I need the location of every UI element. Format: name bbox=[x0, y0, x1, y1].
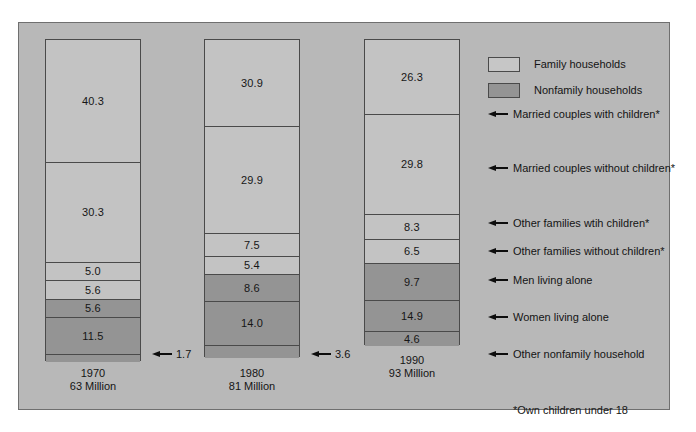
bar-total-label: 63 Million bbox=[45, 380, 141, 393]
bar-segment-other-families-without-children[interactable]: 5.6 bbox=[46, 281, 140, 300]
annotation-other-families-with-children: Other families wtih children* bbox=[488, 217, 649, 229]
segment-value: 5.4 bbox=[244, 260, 260, 271]
segment-value: 30.9 bbox=[241, 78, 263, 89]
segment-value: 26.3 bbox=[401, 72, 423, 83]
bar-segment-married-without-children[interactable]: 30.3 bbox=[46, 163, 140, 263]
annotation-label: Married couples with children* bbox=[513, 108, 660, 120]
bar-segment-women-living-alone[interactable]: 14.9 bbox=[365, 301, 459, 332]
bar-caption-1980: 1980 81 Million bbox=[204, 367, 300, 393]
bar-total-label: 81 Million bbox=[204, 380, 300, 393]
bar-segment-women-living-alone[interactable]: 11.5 bbox=[46, 318, 140, 355]
segment-value: 14.0 bbox=[241, 318, 263, 329]
footnote: *Own children under 18 bbox=[513, 404, 628, 416]
legend-item-nonfamily[interactable]: Nonfamily households bbox=[488, 81, 642, 99]
bar-segment-men-living-alone[interactable]: 8.6 bbox=[205, 275, 299, 302]
bar-segment-other-nonfamily[interactable]: 1.7 bbox=[46, 355, 140, 362]
left-arrow-icon bbox=[488, 350, 508, 359]
legend-item-family[interactable]: Family households bbox=[488, 55, 642, 73]
stacked-bar-1980[interactable]: 30.9 29.9 7.5 5.4 8.6 14.0 3.6 bbox=[204, 39, 300, 357]
bar-segment-other-nonfamily[interactable]: 3.6 bbox=[205, 346, 299, 358]
legend-label: Nonfamily households bbox=[534, 84, 642, 96]
sliver-callout-1980: 3.6 bbox=[311, 348, 350, 360]
annotation-label: Other families wtih children* bbox=[513, 217, 649, 229]
bar-caption-1970: 1970 63 Million bbox=[45, 367, 141, 393]
sliver-callout-value: 3.6 bbox=[335, 348, 350, 360]
bar-segment-men-living-alone[interactable]: 5.6 bbox=[46, 300, 140, 318]
annotation-men-living-alone: Men living alone bbox=[488, 274, 593, 286]
left-arrow-icon bbox=[152, 350, 172, 359]
chart-stage: 40.3 30.3 5.0 5.6 5.6 11.5 1.7 bbox=[0, 0, 696, 432]
annotation-married-with-children: Married couples with children* bbox=[488, 108, 660, 120]
annotation-label: Men living alone bbox=[513, 274, 593, 286]
segment-value: 5.0 bbox=[85, 266, 101, 277]
segment-value: 29.8 bbox=[401, 159, 423, 170]
bar-segment-married-with-children[interactable]: 26.3 bbox=[365, 40, 459, 115]
left-arrow-icon bbox=[488, 313, 508, 322]
bar-segment-married-without-children[interactable]: 29.8 bbox=[365, 115, 459, 215]
stacked-bar-1990[interactable]: 26.3 29.8 8.3 6.5 9.7 14.9 4.6 bbox=[364, 39, 460, 345]
segment-value: 5.6 bbox=[85, 285, 101, 296]
bar-year-label: 1980 bbox=[204, 367, 300, 380]
left-arrow-icon bbox=[488, 219, 508, 228]
segment-value: 40.3 bbox=[82, 96, 104, 107]
segment-value: 6.5 bbox=[404, 246, 420, 257]
bar-segment-women-living-alone[interactable]: 14.0 bbox=[205, 302, 299, 346]
bar-segment-other-families-with-children[interactable]: 7.5 bbox=[205, 234, 299, 257]
annotation-other-nonfamily-household: Other nonfamily household bbox=[488, 348, 644, 360]
stacked-bar-1970[interactable]: 40.3 30.3 5.0 5.6 5.6 11.5 1.7 bbox=[45, 39, 141, 361]
sliver-callout-value: 1.7 bbox=[176, 348, 191, 360]
segment-value: 14.9 bbox=[401, 311, 423, 322]
segment-value: 5.6 bbox=[85, 303, 101, 314]
bar-segment-married-with-children[interactable]: 30.9 bbox=[205, 40, 299, 127]
bar-segment-men-living-alone[interactable]: 9.7 bbox=[365, 264, 459, 301]
bar-segment-other-families-without-children[interactable]: 5.4 bbox=[205, 257, 299, 275]
chart-panel: 40.3 30.3 5.0 5.6 5.6 11.5 1.7 bbox=[18, 22, 670, 410]
legend: Family households Nonfamily households bbox=[488, 55, 642, 107]
annotation-other-families-without-children: Other families without children* bbox=[488, 245, 665, 257]
annotation-women-living-alone: Women living alone bbox=[488, 311, 609, 323]
sliver-callout-1970: 1.7 bbox=[152, 348, 191, 360]
bar-segment-other-nonfamily[interactable]: 4.6 bbox=[365, 332, 459, 346]
segment-value: 7.5 bbox=[244, 240, 260, 251]
bar-segment-other-families-without-children[interactable]: 6.5 bbox=[365, 240, 459, 264]
annotation-label: Other nonfamily household bbox=[513, 348, 644, 360]
bar-year-label: 1990 bbox=[364, 354, 460, 367]
left-arrow-icon bbox=[488, 276, 508, 285]
left-arrow-icon bbox=[488, 164, 508, 173]
segment-value: 4.6 bbox=[404, 334, 420, 345]
segment-value: 30.3 bbox=[82, 207, 104, 218]
annotation-married-without-children: Married couples without children* bbox=[488, 162, 675, 174]
left-arrow-icon bbox=[488, 247, 508, 256]
bar-segment-other-families-with-children[interactable]: 8.3 bbox=[365, 215, 459, 240]
bar-total-label: 93 Million bbox=[364, 367, 460, 380]
segment-value: 11.5 bbox=[82, 331, 103, 342]
segment-value: 29.9 bbox=[241, 175, 263, 186]
left-arrow-icon bbox=[311, 350, 331, 359]
left-arrow-icon bbox=[488, 110, 508, 119]
segment-value: 8.6 bbox=[244, 283, 260, 294]
legend-label: Family households bbox=[534, 58, 626, 70]
bar-segment-married-with-children[interactable]: 40.3 bbox=[46, 40, 140, 163]
bar-year-label: 1970 bbox=[45, 367, 141, 380]
annotation-label: Married couples without children* bbox=[513, 162, 675, 174]
segment-value: 8.3 bbox=[404, 222, 420, 233]
bar-segment-married-without-children[interactable]: 29.9 bbox=[205, 127, 299, 234]
legend-swatch-nonfamily-icon bbox=[488, 83, 520, 98]
annotation-label: Women living alone bbox=[513, 311, 609, 323]
bar-caption-1990: 1990 93 Million bbox=[364, 354, 460, 380]
segment-value: 9.7 bbox=[404, 277, 420, 288]
legend-swatch-family-icon bbox=[488, 57, 520, 72]
annotation-label: Other families without children* bbox=[513, 245, 665, 257]
bar-segment-other-families-with-children[interactable]: 5.0 bbox=[46, 263, 140, 281]
